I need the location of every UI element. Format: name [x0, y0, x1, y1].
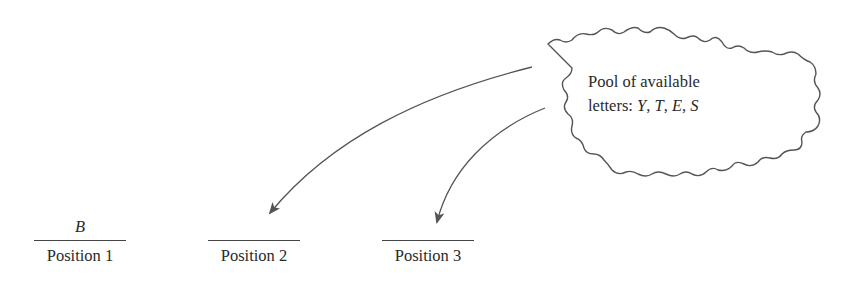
position-2-label: Position 2 — [208, 246, 300, 266]
position-1-label: Position 1 — [34, 246, 126, 266]
arrow-to-position-2 — [270, 67, 532, 213]
position-3-line — [382, 240, 474, 241]
position-2-line — [208, 240, 300, 241]
arrow-to-position-3 — [437, 108, 545, 222]
position-1-line — [34, 240, 126, 241]
cloud-line-2: letters: Y, T, E, S — [588, 94, 700, 118]
cloud-label: Pool of available letters: Y, T, E, S — [588, 70, 700, 118]
diagram-canvas — [0, 0, 850, 284]
position-3-label: Position 3 — [382, 246, 474, 266]
cloud-line-1: Pool of available — [588, 70, 700, 94]
position-1-letter: B — [34, 217, 126, 237]
